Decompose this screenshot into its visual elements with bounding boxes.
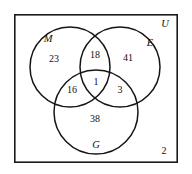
venn-diagram-canvas: U M E G 23 18 41 16 1 3 38 2 [0, 0, 192, 174]
set-label-m: M [43, 33, 54, 44]
region-value-g-only: 38 [90, 113, 100, 124]
region-value-m-only: 23 [49, 53, 59, 64]
region-value-e-and-g: 3 [118, 84, 123, 95]
region-value-m-e-g: 1 [94, 76, 99, 87]
set-label-e: E [146, 37, 154, 48]
region-value-m-and-g: 16 [67, 84, 77, 95]
region-value-outside: 2 [162, 145, 167, 156]
set-label-g: G [92, 139, 100, 150]
venn-diagram-figure: U M E G 23 18 41 16 1 3 38 2 [0, 0, 192, 174]
region-value-m-and-e: 18 [90, 49, 100, 60]
region-value-e-only: 41 [123, 52, 133, 63]
